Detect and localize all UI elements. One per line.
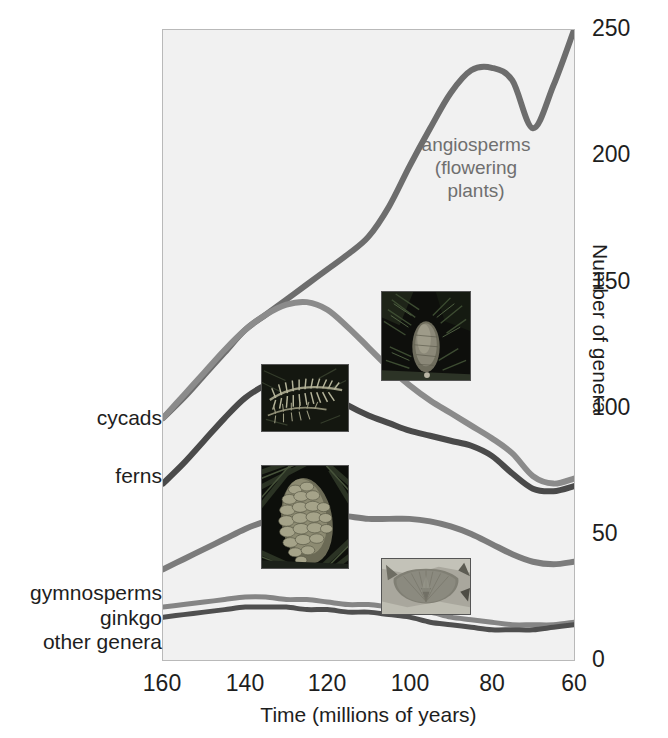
y-axis-title: Number of genera	[588, 244, 612, 413]
x-tick-120	[0, 24, 1, 33]
x-tick-label-160: 160	[132, 672, 192, 695]
series-label-other-genera: other genera	[43, 630, 162, 654]
series-line-gymnosperms	[163, 514, 574, 570]
conifer-cone-photo	[261, 465, 349, 569]
genera-over-time-chart: angiosperms (flowering plants) 250 200 1…	[0, 0, 668, 738]
x-tick-80	[0, 42, 1, 51]
x-tick-100	[0, 33, 1, 42]
y-tick-label-200: 200	[592, 143, 630, 166]
x-tick-label-140: 140	[215, 672, 275, 695]
x-tick-label-100: 100	[380, 672, 440, 695]
cycad-photo	[381, 291, 471, 381]
x-tick-label-60: 60	[544, 672, 604, 695]
plot-area: angiosperms (flowering plants)	[162, 29, 575, 661]
y-tick-0	[0, 5, 9, 6]
series-label-ginkgo: ginkgo	[100, 606, 162, 630]
x-tick-160	[0, 6, 1, 15]
series-label-gymnosperms: gymnosperms	[30, 581, 162, 605]
x-tick-60	[0, 51, 1, 60]
series-lines	[163, 30, 574, 660]
y-tick-label-50: 50	[592, 522, 618, 545]
y-tick-label-250: 250	[592, 17, 630, 40]
series-label-cycads: cycads	[97, 406, 162, 430]
x-axis-title: Time (millions of years)	[162, 703, 575, 727]
ginkgo-leaf-photo	[381, 558, 471, 615]
x-tick-label-120: 120	[297, 672, 357, 695]
x-tick-label-80: 80	[462, 672, 522, 695]
series-line-ferns	[163, 380, 574, 491]
series-line-angiosperms-flowering-plants-	[163, 30, 574, 418]
series-line-cycads	[163, 302, 574, 484]
fern-photo	[261, 364, 349, 432]
y-tick-label-0: 0	[592, 648, 605, 671]
series-label-ferns: ferns	[115, 464, 162, 488]
x-tick-140	[0, 15, 1, 24]
